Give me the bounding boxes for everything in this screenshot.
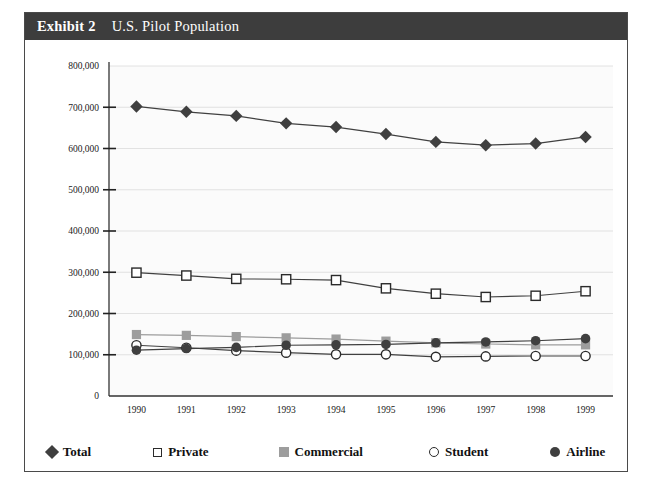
y-axis-tick-label: 400,000 [68,226,99,236]
exhibit-title-bar: Exhibit 2 U.S. Pilot Population [25,13,627,40]
data-point-airline [581,334,591,344]
filled-diamond-icon [45,445,59,459]
data-point-airline [531,336,541,346]
legend-item-airline: Airline [550,444,605,460]
data-point-private [481,292,490,301]
legend-label: Private [168,444,208,460]
data-point-airline [182,344,192,354]
y-axis-tick-label: 700,000 [68,103,99,113]
y-axis-tick-label: 600,000 [68,144,99,154]
legend-item-student: Student [429,444,488,460]
data-point-private [581,287,590,296]
x-axis-tick-label: 1992 [227,405,246,415]
data-point-commercial [232,332,241,341]
data-point-airline [431,338,441,348]
exhibit-title-text: U.S. Pilot Population [112,18,239,35]
legend-label: Student [445,444,488,460]
data-point-private [132,268,141,277]
data-point-private [531,291,540,300]
open-circle-icon [429,447,439,457]
data-point-private [381,284,390,293]
legend-item-total: Total [47,444,91,460]
x-axis-tick-label: 1995 [376,405,395,415]
x-axis-tick-label: 1996 [426,405,445,415]
data-point-airline [331,340,341,350]
exhibit-number-label: Exhibit 2 [37,18,96,35]
data-point-airline [281,340,291,350]
legend-item-commercial: Commercial [279,444,363,460]
legend-label: Airline [566,444,605,460]
line-chart-svg: 0100,000200,000300,000400,000500,000600,… [25,40,627,440]
x-axis-tick-label: 1994 [327,405,346,415]
data-point-student [381,350,390,359]
y-axis-tick-label: 300,000 [68,268,99,278]
data-point-student [331,350,340,359]
x-axis-tick-label: 1999 [576,405,595,415]
y-axis-tick-label: 100,000 [68,350,99,360]
legend-label: Commercial [295,444,363,460]
data-point-airline [231,343,241,353]
data-point-airline [132,345,142,355]
filled-square-icon [279,447,289,457]
data-point-private [282,275,291,284]
x-axis-tick-label: 1997 [476,405,495,415]
data-point-private [182,271,191,280]
legend-item-private: Private [153,444,208,460]
data-point-airline [481,337,491,347]
data-point-student [481,352,490,361]
y-axis-tick-label: 200,000 [68,309,99,319]
data-point-private [431,289,440,298]
open-square-icon [153,448,162,457]
data-point-student [431,352,440,361]
data-point-student [531,351,540,360]
x-axis-tick-label: 1993 [277,405,296,415]
data-point-commercial [182,331,191,340]
filled-circle-icon [550,447,560,457]
data-point-airline [381,340,391,350]
legend-label: Total [63,444,91,460]
data-point-commercial [132,330,141,339]
x-axis-tick-label: 1990 [127,405,146,415]
x-axis-tick-label: 1998 [526,405,545,415]
data-point-private [331,275,340,284]
chart-plot-area: 0100,000200,000300,000400,000500,000600,… [25,40,627,471]
chart-legend: TotalPrivateCommercialStudentAirline [25,439,627,465]
data-point-student [581,351,590,360]
y-axis-tick-label: 0 [94,391,99,401]
exhibit-figure: Exhibit 2 U.S. Pilot Population 0100,000… [24,12,628,472]
y-axis-tick-label: 500,000 [68,185,99,195]
data-point-private [232,274,241,283]
x-axis-tick-label: 1991 [177,405,196,415]
y-axis-tick-label: 800,000 [68,61,99,71]
